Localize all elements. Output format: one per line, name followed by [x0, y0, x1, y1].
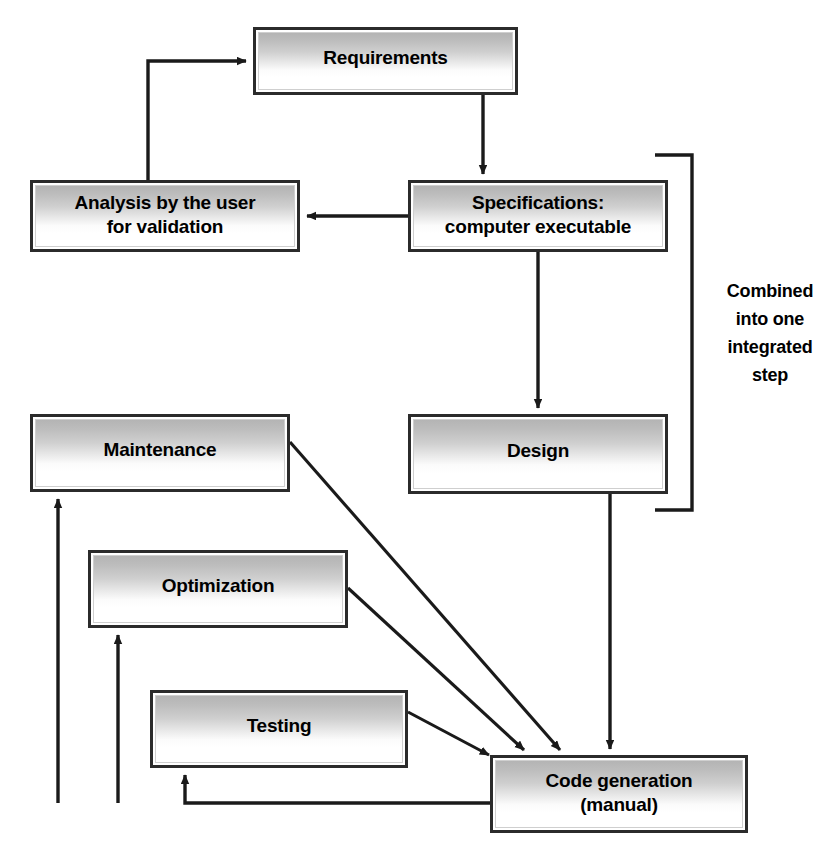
node-specifications[interactable]: Specifications: computer executable	[408, 180, 668, 252]
node-optimization[interactable]: Optimization	[88, 550, 348, 628]
node-code-generation-surface: Code generation (manual)	[495, 760, 743, 828]
edge-analysis-to-requirements	[148, 61, 246, 180]
edge-code-generation-to-testing	[185, 775, 490, 803]
node-analysis-surface: Analysis by the user for validation	[35, 185, 295, 247]
node-design-label: Design	[507, 439, 569, 469]
node-maintenance-surface: Maintenance	[35, 419, 285, 487]
node-specifications-surface: Specifications: computer executable	[413, 185, 663, 247]
node-maintenance[interactable]: Maintenance	[30, 414, 290, 492]
node-optimization-surface: Optimization	[93, 555, 343, 623]
edge-testing-to-code-generation	[408, 712, 489, 755]
node-testing[interactable]: Testing	[150, 690, 408, 768]
node-code-generation[interactable]: Code generation (manual)	[490, 755, 748, 833]
node-testing-surface: Testing	[155, 695, 403, 763]
node-requirements-label: Requirements	[323, 46, 447, 76]
node-requirements[interactable]: Requirements	[253, 27, 518, 95]
node-optimization-label: Optimization	[162, 574, 275, 604]
node-design[interactable]: Design	[408, 414, 668, 494]
node-design-surface: Design	[413, 419, 663, 489]
node-maintenance-label: Maintenance	[104, 438, 217, 468]
process-flow-diagram: Requirements Analysis by the user for va…	[0, 0, 840, 843]
node-testing-label: Testing	[247, 714, 312, 744]
node-code-generation-label: Code generation (manual)	[546, 769, 693, 820]
node-analysis-label: Analysis by the user for validation	[75, 191, 256, 242]
node-requirements-surface: Requirements	[258, 32, 513, 90]
combined-step-note: Combined into one integrated step	[706, 278, 834, 390]
node-specifications-label: Specifications: computer executable	[445, 191, 631, 242]
node-analysis-by-the-user[interactable]: Analysis by the user for validation	[30, 180, 300, 252]
